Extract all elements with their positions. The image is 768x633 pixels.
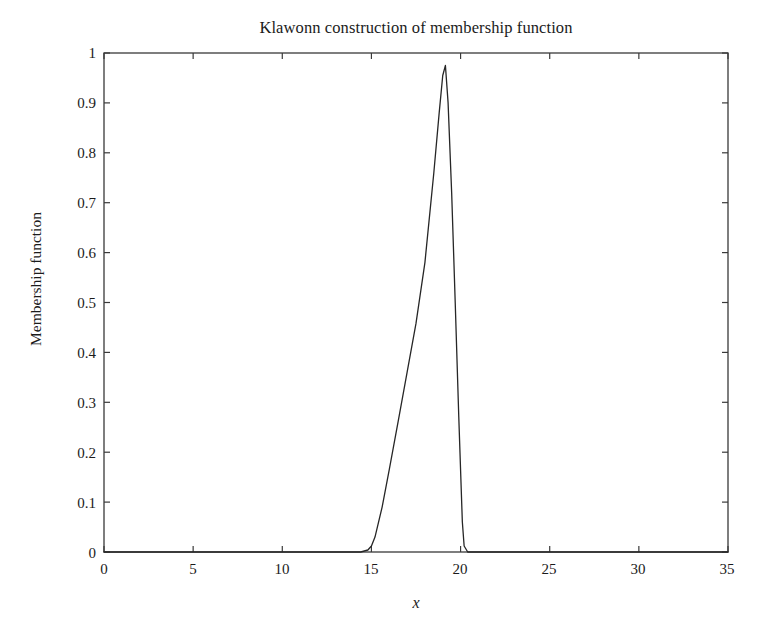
plot-area	[0, 0, 768, 633]
figure-canvas: Klawonn construction of membership funct…	[0, 0, 768, 633]
membership-function-curve	[104, 65, 728, 552]
axes-box	[104, 53, 728, 552]
axis-tick-marks	[104, 53, 728, 552]
